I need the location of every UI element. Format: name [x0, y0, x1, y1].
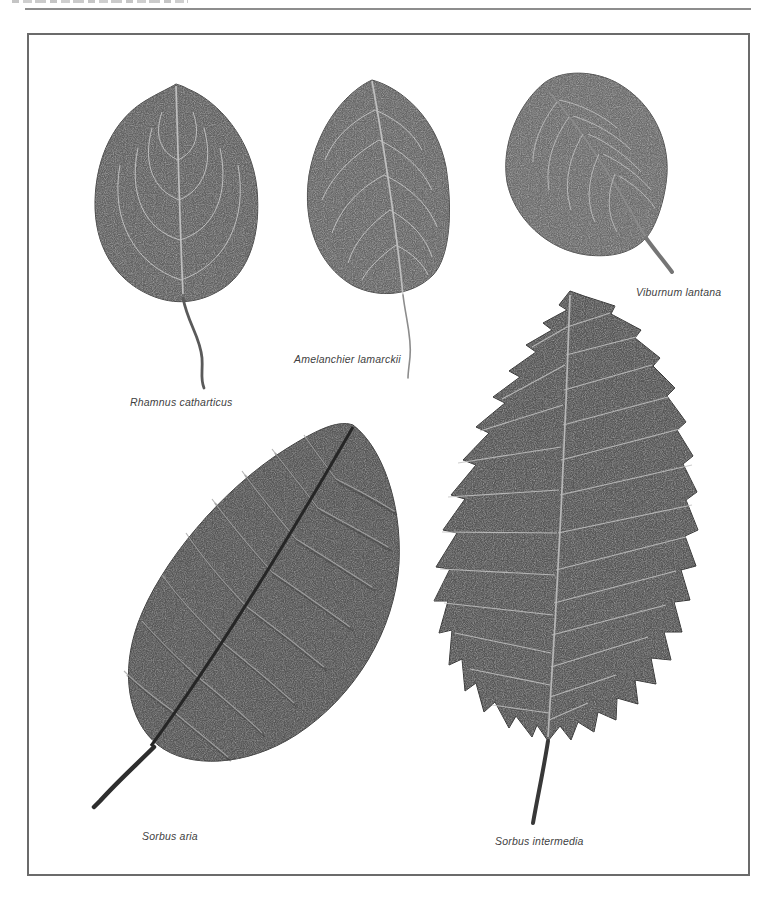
leaf-photo-viburnum-lantana: [495, 62, 695, 277]
leaf-photo-sorbus-aria: [70, 415, 415, 815]
leaf-petiole: [94, 747, 154, 807]
label-rhamnus-catharticus: Rhamnus catharticus: [130, 396, 232, 408]
leaf-petiole: [533, 741, 548, 823]
label-amelanchier-lamarckii: Amelanchier lamarckii: [294, 353, 401, 365]
leaf-petiole: [403, 295, 410, 378]
label-sorbus-intermedia: Sorbus intermedia: [495, 835, 584, 847]
leaf-photo-rhamnus-catharticus: [90, 80, 265, 392]
book-page: Rhamnus catharticus Amelanchier lamarcki…: [0, 0, 777, 915]
leaf-photo-sorbus-intermedia: [420, 285, 710, 835]
leaf-texture: [506, 73, 667, 256]
cropped-running-head: [12, 0, 188, 3]
label-viburnum-lantana: Viburnum lantana: [636, 286, 721, 298]
header-rule: [25, 8, 751, 10]
leaf-petiole: [646, 238, 672, 272]
leaf-petiole: [183, 298, 204, 388]
label-sorbus-aria: Sorbus aria: [142, 830, 198, 842]
leaf-texture: [434, 291, 698, 741]
